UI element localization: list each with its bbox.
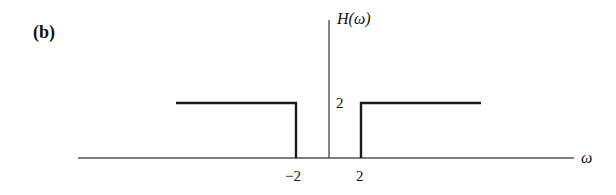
level-label: 2 xyxy=(336,95,344,111)
tick-pos-2: 2 xyxy=(356,168,364,184)
left-passband xyxy=(176,103,296,158)
tick-neg-2: −2 xyxy=(285,168,301,184)
panel-label: (b) xyxy=(33,22,55,43)
filter-plot: (b) H(ω) ω 2 −2 2 xyxy=(0,0,616,195)
right-passband xyxy=(361,103,481,158)
y-axis-label: H(ω) xyxy=(336,10,371,28)
x-axis-label: ω xyxy=(581,149,592,166)
